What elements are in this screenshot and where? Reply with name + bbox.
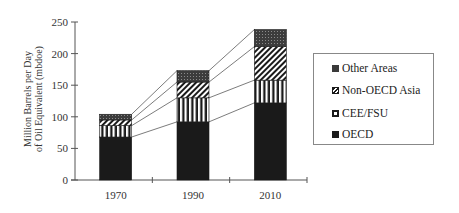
legend-label: Non-OECD Asia bbox=[342, 84, 420, 97]
bar-segment-non-oecd-asia bbox=[254, 47, 286, 80]
bar-segment-cee-fsu bbox=[254, 80, 286, 103]
non-oecd-asia-swatch-icon bbox=[332, 87, 339, 94]
bar-1970 bbox=[100, 114, 132, 180]
y-tick-label: 200 bbox=[52, 48, 69, 60]
x-category-label: 2010 bbox=[259, 189, 282, 201]
x-category-label: 1970 bbox=[105, 189, 128, 201]
bar-segment-oecd bbox=[177, 122, 209, 180]
y-tick-label: 0 bbox=[63, 174, 69, 186]
bar-1990 bbox=[177, 71, 209, 180]
legend-item-oecd: OECD bbox=[332, 128, 373, 141]
legend-item-other-areas: Other Areas bbox=[332, 62, 397, 75]
svg-text:Million Barrels per Dayof Oil: Million Barrels per Dayof Oil Equivalent… bbox=[22, 46, 45, 152]
y-tick-label: 50 bbox=[57, 142, 69, 154]
y-axis-label: Million Barrels per Dayof Oil Equivalent… bbox=[22, 46, 45, 152]
bar-2010 bbox=[254, 30, 286, 180]
legend-label: CEE/FSU bbox=[342, 107, 388, 120]
x-category-label: 1990 bbox=[182, 189, 205, 201]
bar-segment-other-areas bbox=[100, 114, 132, 120]
bar-segment-oecd bbox=[100, 137, 132, 180]
y-tick-label: 100 bbox=[52, 111, 69, 123]
bar-segment-other-areas bbox=[177, 71, 209, 82]
bar-segment-cee-fsu bbox=[100, 126, 132, 137]
legend-label: Other Areas bbox=[342, 62, 397, 75]
legend-item-non-oecd-asia: Non-OECD Asia bbox=[332, 84, 420, 97]
bar-segment-cee-fsu bbox=[177, 98, 209, 122]
legend-label: OECD bbox=[342, 128, 373, 141]
bar-segment-non-oecd-asia bbox=[177, 82, 209, 98]
y-tick-label: 150 bbox=[52, 79, 69, 91]
bar-segment-non-oecd-asia bbox=[100, 120, 132, 126]
legend-item-cee-fsu: CEE/FSU bbox=[332, 107, 388, 120]
bars bbox=[100, 30, 287, 180]
other-areas-swatch-icon bbox=[332, 65, 339, 72]
legend: Other Areas Non-OECD Asia CEE/FSU OECD bbox=[313, 53, 434, 145]
bar-segment-other-areas bbox=[254, 30, 286, 47]
oecd-swatch-icon bbox=[332, 131, 339, 138]
cee-fsu-swatch-icon bbox=[332, 110, 339, 117]
bar-segment-oecd bbox=[254, 103, 286, 180]
y-tick-label: 250 bbox=[52, 16, 69, 28]
